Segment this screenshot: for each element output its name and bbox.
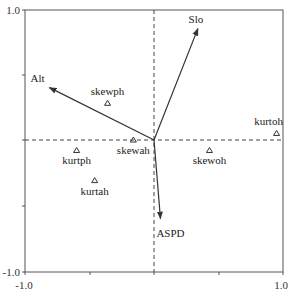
vector-label: Alt (30, 72, 44, 84)
y-max-label: 1.0 (6, 4, 20, 16)
y-min-label: -1.0 (3, 266, 21, 278)
point-label: kurtph (62, 154, 91, 166)
triangle-marker-icon (206, 147, 212, 152)
vector-slo-arrow-icon (154, 29, 198, 140)
triangle-marker-icon (74, 147, 80, 152)
sample-points: skewphskewahkurtphkurtahskewohkurtoh (62, 85, 283, 196)
vector-aspd-arrow-icon (154, 140, 160, 219)
point-label: skewoh (193, 154, 227, 166)
axis-ticks (22, 10, 283, 275)
triangle-marker-icon (105, 100, 111, 105)
vector-label: Slo (189, 13, 204, 25)
vector-label: ASPD (156, 227, 184, 239)
loading-vectors: SloAltASPD (30, 13, 203, 239)
chart-canvas: 1.0 -1.0 -1.0 1.0 SloAltASPD skewphskewa… (0, 0, 290, 295)
x-max-label: 1.0 (274, 279, 288, 291)
x-min-label: -1.0 (15, 279, 33, 291)
point-label: skewph (91, 85, 125, 97)
point-label: kurtah (81, 185, 110, 197)
biplot-chart: 1.0 -1.0 -1.0 1.0 SloAltASPD skewphskewa… (0, 0, 290, 295)
point-label: kurtoh (254, 115, 283, 127)
point-label: skewah (117, 144, 150, 156)
triangle-marker-icon (274, 130, 280, 135)
triangle-marker-icon (92, 178, 98, 183)
